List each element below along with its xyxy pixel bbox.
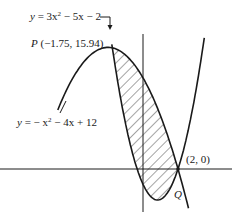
- shaded-region: [112, 48, 178, 200]
- intersection-point: [176, 167, 180, 171]
- upper-parabola-label: y = 3x2 − 5x − 2: [30, 11, 101, 22]
- label-text: − 5x − 2: [61, 10, 101, 22]
- label-text: = − x: [22, 116, 48, 128]
- arrow-head-icon: [108, 25, 113, 30]
- intersection-label: (2, 0): [186, 154, 210, 165]
- point-q-label: Q: [174, 189, 182, 200]
- point-coords: (−1.75, 15.94): [38, 37, 104, 49]
- graph-canvas: [0, 0, 240, 218]
- label-text: = 3x: [35, 10, 58, 22]
- label-text: − 4x + 12: [52, 116, 97, 128]
- point-p-label: P (−1.75, 15.94): [31, 38, 104, 49]
- point-name: P: [31, 37, 38, 49]
- lower-parabola-label: y = − x2 − 4x + 12: [17, 117, 97, 128]
